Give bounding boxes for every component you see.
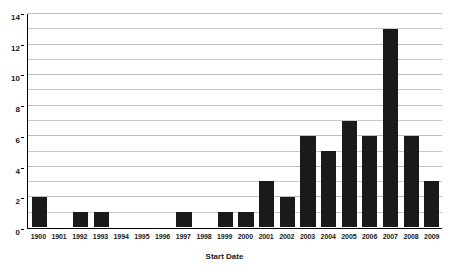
x-axis-tick-label: 2007 — [380, 231, 401, 243]
bar-slot — [153, 14, 174, 227]
bar-slot — [256, 14, 277, 227]
bar — [94, 212, 109, 227]
x-axis-tick-label: 2002 — [276, 231, 297, 243]
bar — [362, 136, 377, 227]
bar — [238, 212, 253, 227]
y-axis-tick — [21, 14, 24, 15]
bar-slot — [421, 14, 442, 227]
y-axis-tick — [21, 168, 24, 169]
bar-slot — [132, 14, 153, 227]
bar-slot — [298, 14, 319, 227]
bar-slot — [380, 14, 401, 227]
y-axis-tick — [21, 229, 24, 230]
bar — [176, 212, 191, 227]
x-axis-tick-label: 1998 — [194, 231, 215, 243]
bar — [280, 197, 295, 227]
y-axis-labels: 02468101214 — [0, 14, 24, 229]
bar — [300, 136, 315, 227]
x-axis-tick-label: 1994 — [111, 231, 132, 243]
x-axis-tick-label: 2009 — [421, 231, 442, 243]
bar-slot — [339, 14, 360, 227]
x-axis-labels: 1900190119921993199419951996199719981999… — [28, 231, 442, 243]
bar-slot — [194, 14, 215, 227]
y-axis-tick — [21, 106, 24, 107]
bar — [383, 29, 398, 227]
x-axis-tick-label: 1995 — [132, 231, 153, 243]
bar-slot — [174, 14, 195, 227]
x-axis-tick-label: 1900 — [28, 231, 49, 243]
bar-slot — [401, 14, 422, 227]
bar — [259, 181, 274, 227]
y-axis-tick — [21, 137, 24, 138]
x-axis-tick-label: 1901 — [49, 231, 70, 243]
x-axis-tick-label: 2004 — [318, 231, 339, 243]
x-axis-tick-label: 2005 — [339, 231, 360, 243]
plot-area — [27, 14, 442, 229]
bar — [321, 151, 336, 227]
bar-slot — [277, 14, 298, 227]
y-axis-tick — [21, 198, 24, 199]
bar — [404, 136, 419, 227]
x-axis-tick-label: 1999 — [214, 231, 235, 243]
bar — [32, 197, 47, 227]
x-axis-tick-label: 1992 — [69, 231, 90, 243]
bar — [218, 212, 233, 227]
x-axis-title: Start Date — [0, 252, 449, 262]
bar-slot — [360, 14, 381, 227]
bar-slot — [91, 14, 112, 227]
x-axis-tick-label: 2003 — [297, 231, 318, 243]
bar-slot — [29, 14, 50, 227]
bar — [424, 181, 439, 227]
bar-slot — [50, 14, 71, 227]
x-axis-tick-label: 1997 — [173, 231, 194, 243]
bar-slot — [236, 14, 257, 227]
x-axis-tick-label: 1996 — [152, 231, 173, 243]
bar-chart: 02468101214 1900190119921993199419951996… — [0, 0, 449, 272]
bar-slot — [318, 14, 339, 227]
x-axis-tick-label: 2008 — [401, 231, 422, 243]
x-axis-tick-label: 2000 — [235, 231, 256, 243]
bar-slot — [112, 14, 133, 227]
x-axis-tick-label: 2006 — [359, 231, 380, 243]
y-axis-tick — [21, 75, 24, 76]
bar-slot — [215, 14, 236, 227]
bar-series — [29, 14, 442, 227]
bar-slot — [70, 14, 91, 227]
bar — [342, 121, 357, 228]
bar — [73, 212, 88, 227]
x-axis-tick-label: 1993 — [90, 231, 111, 243]
y-axis-tick — [21, 45, 24, 46]
x-axis-tick-label: 2001 — [256, 231, 277, 243]
